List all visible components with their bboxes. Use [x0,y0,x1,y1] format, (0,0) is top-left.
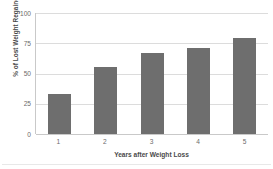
bar [141,53,164,134]
x-axis-tick-label: 4 [175,137,222,147]
bar-slot [175,13,221,134]
bar-chart-figure: % of Lost Weight Regained 0255075100 123… [0,0,273,169]
axis-baseline [36,134,268,135]
x-axis-title: Years after Weight Loss [35,150,268,159]
x-axis-tick-label: 3 [128,137,175,147]
bar-slot [222,13,268,134]
y-axis-tick-label: 25 [13,100,31,107]
bar [187,48,210,134]
y-axis-tick-label: 50 [13,70,31,77]
bar [94,67,117,134]
y-axis-tick-label: 0 [13,131,31,138]
x-axis-tick-label: 1 [35,137,82,147]
bar-slot [36,13,82,134]
footer-divider [2,164,271,165]
bar-slot [82,13,128,134]
y-axis-tick-labels: 0255075100 [13,0,31,169]
bar [233,38,256,134]
plot-area [35,13,268,134]
x-axis-tick-label: 5 [221,137,268,147]
y-axis-tick-label: 100 [13,10,31,17]
x-axis-tick-label: 2 [82,137,129,147]
bar [48,94,71,134]
bars-layer [36,13,268,134]
y-axis-tick-label: 75 [13,40,31,47]
bar-slot [129,13,175,134]
x-axis-tick-labels: 12345 [35,137,268,147]
